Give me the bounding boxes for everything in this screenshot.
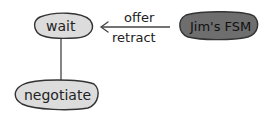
node-jims-fsm-label: Jim's FSM — [190, 20, 251, 33]
edge-label-retract: retract — [112, 31, 156, 44]
node-wait-label: wait — [46, 19, 75, 33]
edge-label-offer: offer — [124, 11, 154, 24]
node-negotiate-label: negotiate — [24, 88, 91, 102]
